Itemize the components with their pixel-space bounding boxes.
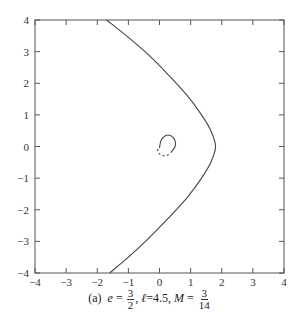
caption-m-label: M [174,291,184,305]
caption-e-fraction: 3 2 [127,288,135,311]
x-tick-label: −4 [29,276,41,288]
y-tick-label: 3 [24,46,30,58]
orbit-plot: −4−3−2−101234−4−3−2−101234 [0,0,300,327]
x-tick-label: 0 [157,276,163,288]
series-inner-spiral-solid- [160,135,176,151]
plot-axes: −4−3−2−101234−4−3−2−101234 [17,14,287,288]
x-tick-label: 2 [219,276,225,288]
y-tick-label: 4 [24,14,30,26]
caption-l-value: 4.5 [153,291,168,305]
figure-caption: (a) e = 3 2 , ℓ=4.5, M = 3 14 [0,288,300,311]
x-tick-label: −3 [60,276,72,288]
y-tick-label: −3 [17,235,29,247]
plot-series [107,20,216,273]
x-tick-label: 1 [188,276,194,288]
y-tick-label: −1 [17,172,29,184]
caption-m-fraction: 3 14 [198,288,211,311]
series-inner-spiral-dashed- [158,148,172,156]
caption-prefix: (a) [88,291,101,305]
y-tick-label: 1 [24,109,30,121]
x-tick-label: −2 [91,276,103,288]
series-outer-orbit [107,20,216,273]
x-tick-label: 3 [250,276,256,288]
caption-e-label: e [108,291,113,305]
y-tick-label: 0 [24,141,30,153]
y-tick-label: −4 [17,267,29,279]
y-tick-label: 2 [24,77,30,89]
y-tick-label: −2 [17,204,29,216]
x-tick-label: 4 [281,276,287,288]
